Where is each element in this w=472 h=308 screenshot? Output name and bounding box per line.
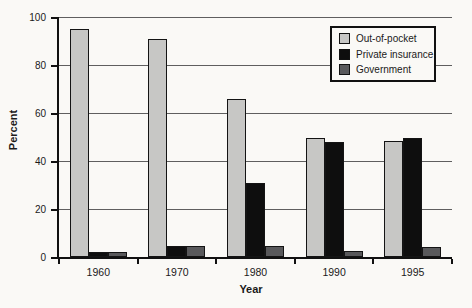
x-category-label-1960: 1960	[68, 266, 128, 278]
y-tick-label-20: 20	[14, 204, 46, 216]
bar-1995-out-of-pocket	[384, 141, 403, 257]
bar-1980-government	[265, 246, 284, 257]
legend: Out-of-pocket Private insurance Governme…	[330, 26, 436, 82]
bar-1960-out-of-pocket	[70, 29, 89, 257]
y-tick-60	[51, 113, 57, 115]
bar-1980-private-insurance	[246, 183, 265, 257]
bar-1980-out-of-pocket	[227, 99, 246, 257]
x-tick-4	[372, 259, 374, 264]
x-axis-title: Year	[196, 283, 306, 295]
y-axis-line	[57, 17, 59, 259]
y-tick-label-100: 100	[14, 12, 46, 24]
x-tick-2	[215, 259, 217, 264]
legend-item-government: Government	[339, 63, 434, 77]
x-category-label-1995: 1995	[383, 266, 443, 278]
y-tick-40	[51, 161, 57, 163]
gridline-100	[59, 17, 452, 18]
y-axis-title: Percent	[7, 90, 19, 170]
x-tick-1	[137, 259, 139, 264]
bar-1970-government	[186, 246, 205, 257]
x-axis-line	[57, 257, 452, 259]
x-category-label-1970: 1970	[147, 266, 207, 278]
private-insurance-swatch-icon	[339, 49, 350, 60]
legend-label: Private insurance	[356, 49, 433, 60]
legend-label: Out-of-pocket	[356, 33, 417, 44]
x-category-label-1990: 1990	[304, 266, 364, 278]
y-tick-0	[51, 257, 57, 259]
y-tick-100	[51, 17, 57, 19]
y-tick-label-0: 0	[14, 252, 46, 264]
bar-1990-out-of-pocket	[306, 138, 325, 257]
bar-1970-private-insurance	[167, 246, 186, 257]
bar-1995-private-insurance	[403, 138, 422, 257]
out-of-pocket-swatch-icon	[339, 33, 350, 44]
y-tick-20	[51, 209, 57, 211]
bar-1995-government	[422, 247, 441, 257]
x-tick-3	[294, 259, 296, 264]
x-category-label-1980: 1980	[226, 266, 286, 278]
x-tick-0	[58, 259, 60, 264]
bar-chart-figure: 02040608010019601970198019901995 Percent…	[0, 0, 472, 308]
government-swatch-icon	[339, 64, 350, 75]
y-tick-80	[51, 65, 57, 67]
bar-1990-private-insurance	[325, 142, 344, 257]
bar-1970-out-of-pocket	[148, 39, 167, 257]
legend-label: Government	[356, 64, 411, 75]
gridline-60	[59, 113, 452, 114]
legend-item-out-of-pocket: Out-of-pocket	[339, 32, 434, 46]
x-tick-5	[451, 259, 453, 264]
legend-item-private-insurance: Private insurance	[339, 47, 434, 61]
y-tick-label-80: 80	[14, 60, 46, 72]
